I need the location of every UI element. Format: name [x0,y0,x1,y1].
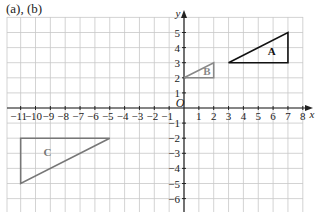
triangle-label-c: C [43,146,51,158]
y-tick-label: 5 [175,27,181,39]
coordinate-grid: xyO−11−10−9−8−7−6−5−4−3−2−112345678−6−5−… [0,0,317,216]
triangle-label-b: B [203,65,211,77]
y-tick-label: 1 [175,87,181,99]
y-tick-label: 2 [175,72,181,84]
x-tick-label: −5 [102,110,114,122]
x-tick-label: −10 [25,110,43,122]
x-tick-label: 4 [241,110,247,122]
x-tick-label: −3 [132,110,144,122]
x-tick-label: 1 [196,110,202,122]
y-tick-label: −3 [168,147,180,159]
y-tick-label: 4 [175,42,181,54]
x-axis-label: x [309,108,315,120]
x-tick-label: 3 [226,110,232,122]
x-tick-label: 8 [300,110,306,122]
x-tick-label: −7 [72,110,84,122]
y-tick-label: −4 [168,162,180,174]
x-tick-label: −9 [42,110,54,122]
y-axis-arrow-icon [181,10,187,18]
x-tick-label: 7 [285,110,291,122]
x-tick-label: 2 [211,110,217,122]
y-tick-label: 3 [175,57,181,69]
x-tick-label: 5 [256,110,262,122]
x-tick-label: −6 [87,110,99,122]
x-tick-label: −2 [146,110,158,122]
x-tick-label: 6 [270,110,276,122]
y-axis-label: y [175,7,181,19]
y-tick-label: −6 [168,193,180,205]
y-tick-label: −2 [168,132,180,144]
triangle-label-a: A [268,45,276,57]
y-tick-label: −1 [168,117,180,129]
y-tick-label: −5 [168,178,180,190]
x-tick-label: −4 [117,110,129,122]
x-tick-label: −8 [57,110,69,122]
